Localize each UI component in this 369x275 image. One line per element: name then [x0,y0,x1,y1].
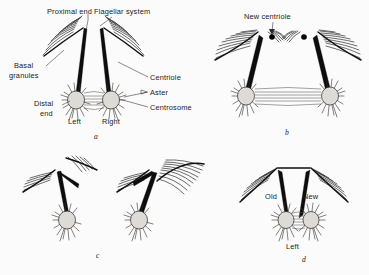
panel-d: Old New Left d [240,168,348,264]
aster-c-right [124,203,153,241]
label-distal-1: Distal [34,99,54,108]
spindle-fibers-a [84,92,104,110]
aster-right-b [318,79,345,117]
flagella-c-left-upper [66,156,97,172]
panel-b: New centriole b [215,12,361,137]
label-aster: Aster [150,88,168,97]
label-basal-2: granules [9,71,39,80]
leader-proximal-end [86,14,88,31]
panel-c-left-cell [23,156,97,241]
leader-centrosome [119,99,148,107]
flagella-right-a [104,16,144,56]
label-centrosome: Centrosome [150,103,192,112]
flagella-c-right-fan [157,160,204,194]
panel-c-right-cell: c [96,160,204,260]
label-right-a: Right [102,117,120,126]
new-centriole-dot-right [301,34,307,40]
label-distal-2: end [40,109,53,118]
aster-right-a [97,83,126,120]
new-centriole-dot-left [269,34,275,40]
label-old-d: Old [265,192,277,201]
label-basal-1: Basal [14,61,33,70]
label-left-d: Left [286,242,299,251]
label-centriole: Centriole [150,73,181,82]
label-new-d: New [303,192,319,201]
label-flagellar-system: Flagellar system [94,7,150,16]
figure-centriole-replication: Proximal end Flagellar system Basal gran… [0,0,369,275]
panel-label-d: d [302,255,306,264]
spindle-fibers-b [255,88,321,106]
aster-left-a [61,83,90,120]
panel-label-c: c [96,251,100,260]
aster-left-b [231,79,258,117]
centriole-old-d [278,170,289,218]
flagella-left-a [43,16,83,56]
panel-label-a: a [94,132,98,141]
flagella-outer-left-b [215,30,258,60]
flagella-c-left-outer [23,170,55,192]
panel-a: Proximal end Flagellar system Basal gran… [9,7,192,141]
flagella-outer-right-b [318,30,361,60]
label-left-a: Left [68,117,81,126]
aster-d-left [271,203,298,241]
label-new-centriole: New centriole [244,12,291,21]
flagella-c-right-outer [117,170,149,192]
label-proximal-end: Proximal end [47,7,92,16]
panel-label-b: b [285,128,289,137]
leader-centriole [118,62,148,77]
